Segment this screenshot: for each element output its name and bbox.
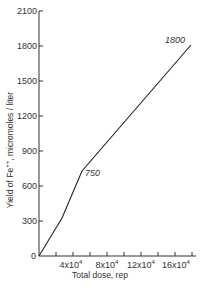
- svg-text:1500: 1500: [17, 76, 37, 86]
- svg-text:300: 300: [22, 216, 37, 226]
- annotation-knee: 750: [85, 168, 100, 178]
- svg-text:16x104: 16x104: [162, 259, 191, 270]
- data-line: [39, 45, 191, 256]
- svg-text:2100: 2100: [17, 6, 37, 16]
- svg-text:900: 900: [22, 146, 37, 156]
- svg-text:0: 0: [31, 251, 36, 261]
- chart: 2100 1800 1500 1200 900 600 300 0 4x104 …: [0, 0, 200, 287]
- svg-text:8x104: 8x104: [96, 259, 120, 270]
- x-tick-labels: 4x104 8x104 12x104 16x104: [60, 259, 191, 270]
- y-ticks: [39, 11, 43, 221]
- svg-text:1200: 1200: [17, 111, 37, 121]
- x-axis-label: Total dose, rep: [72, 270, 128, 280]
- annotation-end: 1800: [165, 35, 185, 45]
- y-axis-label: Yield of Fe++, micromoles / liter: [4, 92, 15, 208]
- svg-text:600: 600: [22, 181, 37, 191]
- svg-text:12x104: 12x104: [127, 259, 156, 270]
- svg-text:1800: 1800: [17, 41, 37, 51]
- y-tick-labels: 2100 1800 1500 1200 900 600 300 0: [17, 6, 37, 261]
- x-ticks: [56, 252, 192, 256]
- svg-text:4x104: 4x104: [60, 259, 84, 270]
